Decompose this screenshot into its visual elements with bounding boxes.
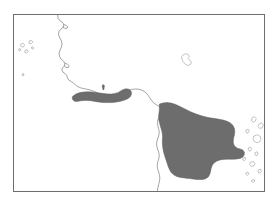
island-left-d bbox=[19, 49, 21, 51]
island-left-f bbox=[22, 74, 24, 76]
island-right-chain-4 bbox=[253, 135, 261, 143]
distribution-map-figure bbox=[0, 0, 279, 207]
island-right-chain-10 bbox=[246, 172, 249, 175]
island-left-e bbox=[31, 47, 33, 49]
map-canvas bbox=[0, 0, 279, 207]
island-left-a bbox=[20, 43, 24, 47]
small-marker-speck bbox=[102, 85, 104, 90]
map-frame-border bbox=[14, 15, 265, 192]
